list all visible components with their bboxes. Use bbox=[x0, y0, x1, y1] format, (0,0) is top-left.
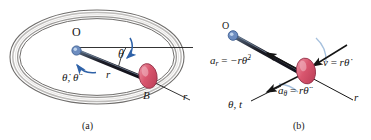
velocity-symbol: v bbox=[323, 56, 328, 68]
label-collar-B: B bbox=[143, 90, 150, 101]
label-angular-rates: θ̇, θ̈ bbox=[62, 72, 78, 83]
radial-acceleration-vector bbox=[267, 53, 299, 70]
pin-support-O bbox=[228, 31, 238, 41]
transverse-accel-expression: rθ̈ bbox=[299, 84, 309, 96]
label-transverse-acceleration: aθ = rθ̈ bbox=[278, 85, 309, 97]
label-theta-angle: θ bbox=[118, 48, 124, 60]
angular-motion-arrow bbox=[127, 38, 132, 58]
radial-accel-equals: = bbox=[221, 54, 227, 66]
transverse-accel-equals: = bbox=[290, 84, 296, 96]
angular-rate-arrow bbox=[77, 65, 96, 73]
velocity-equals: = bbox=[331, 56, 337, 68]
label-radial-axis-r: r bbox=[354, 92, 358, 103]
transverse-accel-subscript: θ bbox=[284, 89, 288, 98]
radial-axis-r bbox=[308, 76, 353, 100]
transverse-axis-theta bbox=[251, 86, 281, 101]
label-radial-axis-r: r bbox=[183, 91, 187, 102]
radial-accel-expression: −rθ̇ bbox=[230, 54, 247, 66]
caption-panel-a: (a) bbox=[82, 120, 93, 131]
label-origin-O: O bbox=[72, 26, 81, 38]
velocity-expression: rθ̇ bbox=[340, 56, 350, 68]
label-velocity: v = rθ̇ bbox=[323, 57, 349, 68]
label-arm-length-r: r bbox=[106, 69, 110, 80]
panel-a: O θ r r B θ̇, θ̈ (a) bbox=[0, 0, 195, 140]
panel-b: O ar = −rθ̇2 aθ = rθ̈ v = rθ̇ r θ, t (b) bbox=[195, 0, 371, 140]
label-origin-O: O bbox=[222, 21, 229, 31]
pin-support-O bbox=[72, 46, 81, 55]
label-radial-acceleration: ar = −rθ̇2 bbox=[210, 55, 251, 67]
label-transverse-axis-theta: θ, t bbox=[228, 99, 242, 110]
panel-a-graphics bbox=[0, 0, 195, 140]
collar-B bbox=[294, 57, 317, 86]
caption-panel-b: (b) bbox=[293, 120, 305, 131]
figure-container: O θ r r B θ̇, θ̈ (a) bbox=[0, 0, 371, 140]
radial-accel-exponent: 2 bbox=[247, 54, 251, 62]
